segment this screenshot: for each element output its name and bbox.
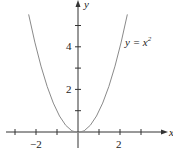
y-axis-label: y [83, 0, 89, 10]
curve-label: y = x2 [124, 35, 152, 48]
y-axis-arrow-icon [76, 0, 81, 7]
x-tick-label-neg2: −2 [30, 138, 42, 150]
x-axis-arrow-icon [161, 130, 168, 135]
y-tick-label-2: 2 [66, 83, 72, 95]
y-tick-label-4: 4 [66, 40, 72, 52]
x-axis-label: x [168, 126, 173, 138]
parabola-chart: −2 2 2 4 y x y = x2 [0, 0, 173, 155]
x-tick-label-2: 2 [116, 138, 122, 150]
